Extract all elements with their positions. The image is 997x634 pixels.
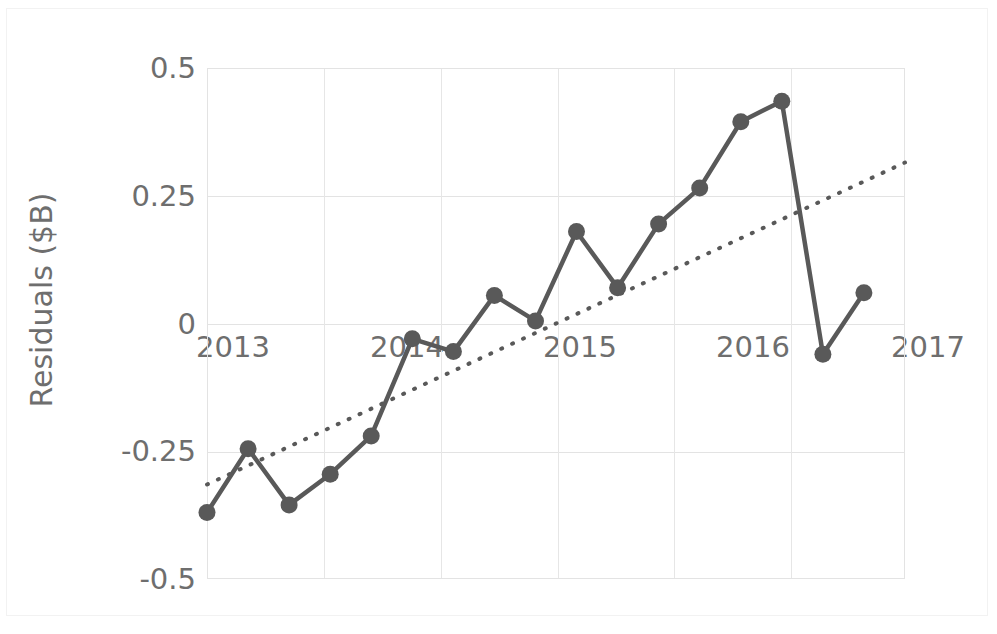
chart-canvas: Residuals ($B) 0.5 0.25 0 -0.25 -0.5 201…	[0, 0, 997, 634]
y-tick-label-2: 0	[178, 310, 196, 339]
y-axis-tick-labels: 0.5 0.25 0 -0.25 -0.5	[0, 0, 196, 634]
gridline-y-0.25	[208, 196, 904, 197]
y-tick-label-3: -0.25	[121, 437, 196, 466]
gridline-x-minor	[791, 69, 792, 578]
gridline-x-2014	[324, 69, 325, 578]
gridline-x-2016	[558, 69, 559, 578]
plot-area	[207, 68, 905, 579]
gridline-y--0.25	[208, 452, 904, 453]
gridline-x-2017	[674, 69, 675, 578]
y-tick-label-0: 0.5	[150, 54, 196, 83]
gridline-y-0	[208, 324, 904, 325]
y-tick-label-4: -0.5	[139, 565, 196, 594]
y-tick-label-1: 0.25	[131, 182, 196, 211]
gridline-x-2015	[441, 69, 442, 578]
